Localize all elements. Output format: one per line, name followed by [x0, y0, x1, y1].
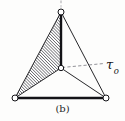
tau-symbol: τ [106, 57, 113, 72]
tau-subscript: o [114, 66, 119, 76]
edge-center-to-bottom-right [61, 68, 106, 98]
edge-apex-to-bottom-right [61, 12, 106, 98]
bottom-left-node [12, 95, 18, 101]
tau-leader-line [62, 64, 104, 68]
figure-container: τo (b) [0, 0, 125, 121]
apex-node [58, 9, 64, 15]
tau-zero-label: τo [106, 58, 118, 74]
bottom-right-node [103, 95, 109, 101]
center-node [58, 65, 63, 70]
figure-caption: (b) [0, 104, 125, 114]
